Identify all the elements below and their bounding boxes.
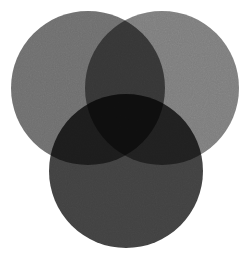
venn-diagram-figure (0, 0, 251, 260)
venn-canvas (0, 0, 251, 260)
venn-circle-bottom (49, 94, 203, 248)
